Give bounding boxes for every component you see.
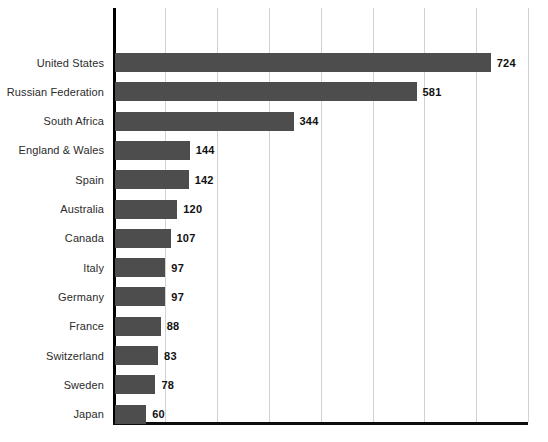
bar xyxy=(115,82,417,101)
bar xyxy=(115,53,491,72)
bar xyxy=(115,405,146,424)
bar-row: England & Wales144 xyxy=(113,141,528,160)
bar xyxy=(115,317,161,336)
bar-category-label: Germany xyxy=(58,291,104,303)
bar-category-label: England & Wales xyxy=(19,144,104,156)
bar-value-label: 107 xyxy=(177,232,196,244)
bar-category-label: South Africa xyxy=(43,115,104,127)
bar-value-label: 97 xyxy=(171,291,184,303)
bar-value-label: 83 xyxy=(164,350,177,362)
bar xyxy=(115,229,171,248)
bar-category-label: France xyxy=(69,320,104,332)
bar-category-label: United States xyxy=(37,57,104,69)
bar-row: Germany97 xyxy=(113,287,528,306)
bar-row: Australia120 xyxy=(113,200,528,219)
bar-row: South Africa344 xyxy=(113,112,528,131)
bar-category-label: Japan xyxy=(74,408,104,420)
bar-row: Canada107 xyxy=(113,229,528,248)
bar-value-label: 581 xyxy=(423,86,442,98)
bar-value-label: 78 xyxy=(161,379,174,391)
bar-category-label: Spain xyxy=(75,174,104,186)
bar xyxy=(115,112,294,131)
bar-category-label: Australia xyxy=(60,203,104,215)
bar xyxy=(115,170,189,189)
bar xyxy=(115,287,165,306)
bar-value-label: 97 xyxy=(171,262,184,274)
bar-category-label: Switzerland xyxy=(46,350,104,362)
gridline xyxy=(528,8,529,422)
bar-row: Spain142 xyxy=(113,170,528,189)
bar-row: Russian Federation581 xyxy=(113,82,528,101)
plot-area: United States724Russian Federation581Sou… xyxy=(113,8,528,424)
bar xyxy=(115,200,177,219)
bar-category-label: Canada xyxy=(65,232,104,244)
bar-value-label: 724 xyxy=(497,57,516,69)
bar-category-label: Sweden xyxy=(64,379,104,391)
bar-row: United States724 xyxy=(113,53,528,72)
bar-value-label: 144 xyxy=(196,144,215,156)
bar-value-label: 142 xyxy=(195,174,214,186)
bar-category-label: Italy xyxy=(83,262,104,274)
bar-row: Sweden78 xyxy=(113,375,528,394)
bar-chart: United States724Russian Federation581Sou… xyxy=(0,0,548,442)
bar-value-label: 120 xyxy=(183,203,202,215)
bar-value-label: 60 xyxy=(152,408,165,420)
bar-value-label: 344 xyxy=(300,115,319,127)
bar xyxy=(115,141,190,160)
bar-row: Japan60 xyxy=(113,405,528,424)
bar-category-label: Russian Federation xyxy=(7,86,104,98)
bar-series: United States724Russian Federation581Sou… xyxy=(113,8,528,422)
bar xyxy=(115,375,155,394)
bar xyxy=(115,346,158,365)
bar-value-label: 88 xyxy=(167,320,180,332)
bar-row: Italy97 xyxy=(113,258,528,277)
bar xyxy=(115,258,165,277)
bar-row: Switzerland83 xyxy=(113,346,528,365)
bar-row: France88 xyxy=(113,317,528,336)
